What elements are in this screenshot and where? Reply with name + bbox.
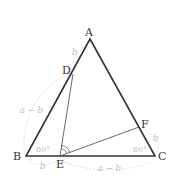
segment-EF (60, 127, 139, 156)
diagram-canvas: A B C D E F 60° 60° b a − b b a − b b (0, 0, 178, 176)
vertex-label-F: F (141, 118, 149, 131)
vertex-label-B: B (13, 150, 21, 163)
vertex-label-E: E (56, 158, 64, 171)
angle-mark-E-inner (61, 149, 67, 154)
length-label-AD: b (72, 47, 77, 57)
length-label-EC: a − b (98, 163, 121, 173)
triangle-ABC (26, 39, 155, 156)
length-label-CF: b (153, 133, 158, 143)
vertex-label-C: C (158, 150, 166, 163)
vertex-label-D: D (62, 64, 71, 77)
length-label-BE: b (40, 161, 45, 171)
angle-label-C: 60° (133, 145, 147, 154)
vertex-label-A: A (84, 26, 94, 39)
segment-DE (60, 74, 73, 156)
angle-label-B: 60° (36, 145, 50, 154)
geometry-diagram: A B C D E F 60° 60° b a − b b a − b b (0, 0, 178, 176)
length-label-DB: a − b (20, 105, 43, 115)
